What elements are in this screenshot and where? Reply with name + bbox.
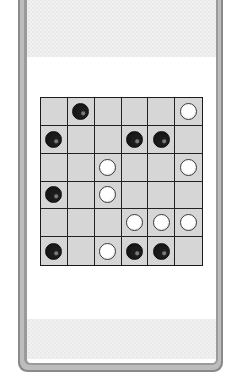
board-cell-r1-c2[interactable] bbox=[95, 126, 122, 154]
board-cell-r3-c3[interactable] bbox=[122, 182, 149, 210]
black-piece-icon[interactable] bbox=[45, 131, 62, 148]
board-cell-r4-c4[interactable] bbox=[148, 209, 175, 237]
bottom-pattern-area bbox=[27, 319, 216, 359]
board-cell-r0-c5[interactable] bbox=[175, 98, 202, 126]
board-cell-r2-c5[interactable] bbox=[175, 154, 202, 182]
board-cell-r0-c4[interactable] bbox=[148, 98, 175, 126]
black-piece-icon[interactable] bbox=[126, 131, 143, 148]
board-cell-r0-c3[interactable] bbox=[122, 98, 149, 126]
board-cell-r1-c1[interactable] bbox=[68, 126, 95, 154]
board-cell-r5-c4[interactable] bbox=[148, 237, 175, 265]
board-cell-r0-c1[interactable] bbox=[68, 98, 95, 126]
board-cell-r1-c4[interactable] bbox=[148, 126, 175, 154]
board-cell-r2-c4[interactable] bbox=[148, 154, 175, 182]
board-cell-r4-c1[interactable] bbox=[68, 209, 95, 237]
board-cell-r2-c3[interactable] bbox=[122, 154, 149, 182]
board-cell-r4-c2[interactable] bbox=[95, 209, 122, 237]
board-cell-r2-c2[interactable] bbox=[95, 154, 122, 182]
white-piece-icon[interactable] bbox=[99, 159, 116, 176]
board-cell-r4-c5[interactable] bbox=[175, 209, 202, 237]
white-piece-icon[interactable] bbox=[153, 214, 170, 231]
board-cell-r3-c2[interactable] bbox=[95, 182, 122, 210]
board-cell-r1-c5[interactable] bbox=[175, 126, 202, 154]
board-cell-r4-c0[interactable] bbox=[41, 209, 68, 237]
board-cell-r5-c3[interactable] bbox=[122, 237, 149, 265]
board-cell-r5-c2[interactable] bbox=[95, 237, 122, 265]
black-piece-icon[interactable] bbox=[126, 243, 143, 260]
black-piece-icon[interactable] bbox=[153, 131, 170, 148]
white-piece-icon[interactable] bbox=[180, 214, 197, 231]
board-cell-r5-c1[interactable] bbox=[68, 237, 95, 265]
board-cell-r3-c1[interactable] bbox=[68, 182, 95, 210]
board-cell-r3-c5[interactable] bbox=[175, 182, 202, 210]
game-board bbox=[40, 97, 203, 266]
board-cell-r3-c4[interactable] bbox=[148, 182, 175, 210]
board-cell-r4-c3[interactable] bbox=[122, 209, 149, 237]
board-cell-r0-c2[interactable] bbox=[95, 98, 122, 126]
board-cell-r1-c0[interactable] bbox=[41, 126, 68, 154]
white-piece-icon[interactable] bbox=[99, 186, 116, 203]
board-cell-r5-c0[interactable] bbox=[41, 237, 68, 265]
board-cell-r5-c5[interactable] bbox=[175, 237, 202, 265]
white-piece-icon[interactable] bbox=[180, 103, 197, 120]
board-cell-r1-c3[interactable] bbox=[122, 126, 149, 154]
board-cell-r2-c0[interactable] bbox=[41, 154, 68, 182]
black-piece-icon[interactable] bbox=[153, 243, 170, 260]
black-piece-icon[interactable] bbox=[45, 186, 62, 203]
board-cell-r3-c0[interactable] bbox=[41, 182, 68, 210]
white-piece-icon[interactable] bbox=[180, 159, 197, 176]
white-piece-icon[interactable] bbox=[99, 243, 116, 260]
top-pattern-area bbox=[27, 0, 216, 57]
black-piece-icon[interactable] bbox=[72, 103, 89, 120]
black-piece-icon[interactable] bbox=[45, 243, 62, 260]
white-piece-icon[interactable] bbox=[126, 214, 143, 231]
board-cell-r2-c1[interactable] bbox=[68, 154, 95, 182]
board-cell-r0-c0[interactable] bbox=[41, 98, 68, 126]
